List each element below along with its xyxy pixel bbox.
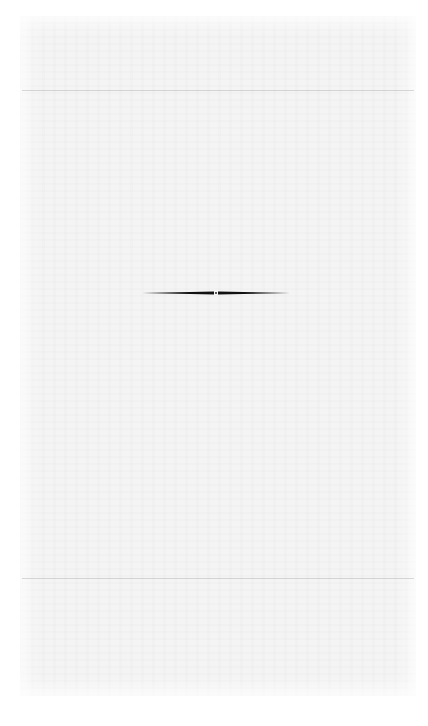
bleed-through-line-bottom [22,578,414,579]
section-divider-ornament [142,290,290,296]
bleed-through-line-top [22,90,414,91]
scanned-page [20,16,416,696]
